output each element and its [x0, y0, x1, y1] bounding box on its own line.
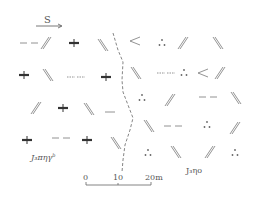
scale-bar: 0 10 20m	[83, 173, 163, 185]
three-dots-icon	[159, 39, 166, 46]
double-slash-icon	[230, 122, 240, 134]
double-slash-icon	[205, 146, 215, 158]
cross-icon	[82, 136, 92, 144]
unit-label-left: J₃πηγb	[29, 152, 55, 162]
double-backslash-icon	[144, 120, 154, 132]
double-backslash-icon	[213, 37, 223, 49]
cross-icon	[101, 73, 111, 81]
unit-label-right: J₃ηo	[185, 166, 202, 175]
double-slash-icon	[178, 37, 188, 49]
scale-label-20m: 20m	[145, 173, 163, 182]
three-dots-icon	[181, 69, 188, 76]
double-slash-icon	[165, 94, 175, 106]
geological-map: S J₃πηγb J₃ηo 0 10 20m	[0, 0, 255, 201]
double-slash-icon	[41, 37, 51, 49]
unit-label-left-sup: b	[52, 152, 55, 158]
cross-icon	[22, 136, 32, 144]
double-backslash-icon	[131, 67, 141, 79]
three-dots-icon	[232, 149, 239, 156]
three-dots-icon	[139, 94, 146, 101]
three-dots-icon	[145, 149, 152, 156]
direction-indicator: S	[36, 14, 62, 28]
angle-icon	[198, 69, 208, 77]
double-backslash-icon	[231, 92, 241, 104]
cross-icon	[58, 104, 68, 112]
angle-icon	[130, 37, 140, 45]
cross-icon	[69, 39, 79, 47]
double-backslash-icon	[84, 103, 94, 115]
three-dots-icon	[204, 121, 211, 128]
scale-label-0: 0	[83, 173, 88, 182]
double-slash-icon	[31, 102, 41, 114]
scale-label-10: 10	[113, 173, 123, 182]
double-backslash-icon	[43, 69, 53, 81]
direction-label: S	[44, 14, 51, 25]
cross-icon	[19, 71, 29, 79]
double-slash-icon	[215, 67, 225, 79]
double-backslash-icon	[98, 39, 108, 51]
double-backslash-icon	[111, 137, 121, 149]
contact-boundary	[113, 33, 133, 172]
lithology-symbols	[19, 37, 241, 158]
unit-label-left-text: J₃πηγ	[29, 153, 52, 162]
double-backslash-icon	[171, 146, 181, 158]
